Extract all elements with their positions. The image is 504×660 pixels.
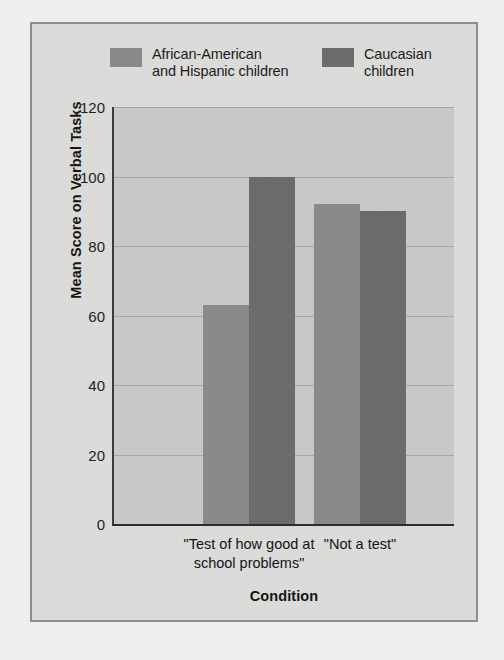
y-tick-label: 80 bbox=[88, 238, 105, 255]
y-axis-title: Mean Score on Verbal Tasks bbox=[68, 90, 84, 310]
y-tick-label: 0 bbox=[97, 516, 105, 533]
x-tick-label: "Test of how good at school problems" bbox=[184, 535, 315, 573]
y-tick-label: 20 bbox=[88, 446, 105, 463]
y-tick-label: 60 bbox=[88, 307, 105, 324]
plot-area: 020406080100120 "Test of how good at sch… bbox=[112, 107, 454, 526]
y-tick-label: 100 bbox=[80, 168, 105, 185]
bar bbox=[360, 211, 406, 524]
bar bbox=[314, 204, 360, 524]
bar bbox=[203, 305, 249, 524]
y-tick-label: 40 bbox=[88, 377, 105, 394]
x-tick-label: "Not a test" bbox=[324, 535, 396, 554]
chart-plot-wrapper: Mean Score on Verbal Tasks 0204060801001… bbox=[32, 24, 476, 620]
figure-frame: African-American and Hispanic children C… bbox=[30, 22, 478, 622]
x-axis-title: Condition bbox=[250, 588, 319, 604]
y-tick-label: 120 bbox=[80, 99, 105, 116]
bars-layer bbox=[114, 107, 454, 524]
bar bbox=[249, 177, 295, 525]
